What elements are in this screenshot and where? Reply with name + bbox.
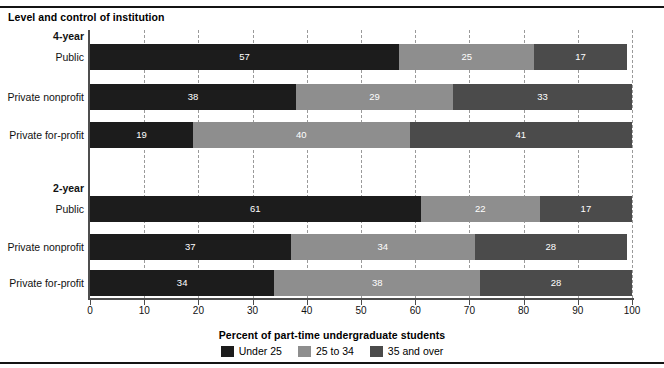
bar-segment-25-to-34[interactable]: 25 [399, 44, 535, 70]
tick-label-50: 50 [355, 305, 366, 316]
bar-segment-value: 41 [516, 130, 527, 140]
bar-segment-25-to-34[interactable]: 34 [291, 234, 475, 260]
bar-segment-value: 28 [545, 242, 556, 252]
bar-segment-value: 61 [250, 204, 261, 214]
tick-label-60: 60 [410, 305, 421, 316]
tick-label-0: 0 [87, 305, 93, 316]
top-rule [0, 6, 664, 8]
bar-segment-25-to-34[interactable]: 40 [193, 122, 410, 148]
bar-segment-value: 40 [296, 130, 307, 140]
legend-item[interactable]: 25 to 34 [298, 345, 354, 357]
bar-segment-under-25[interactable]: 57 [90, 44, 399, 70]
legend-swatch-25-to-34 [298, 346, 311, 357]
bar-row[interactable]: 343828 [90, 270, 632, 296]
bar-segment-25-to-34[interactable]: 29 [296, 84, 453, 110]
bar-segment-value: 38 [188, 92, 199, 102]
row-label-private-nonprofit: Private nonprofit [0, 91, 84, 103]
bar-row[interactable]: 194041 [90, 122, 632, 148]
bar-segment-25-to-34[interactable]: 22 [421, 196, 540, 222]
row-label-private-for-profit: Private for-profit [0, 129, 84, 141]
bar-row[interactable]: 612217 [90, 196, 632, 222]
bar-segment-value: 22 [475, 204, 486, 214]
bar-segment-under-25[interactable]: 37 [90, 234, 291, 260]
bar-row[interactable]: 382933 [90, 84, 632, 110]
bar-segment-value: 34 [177, 278, 188, 288]
tick-label-10: 10 [139, 305, 150, 316]
legend-swatch-35-and-over [370, 346, 383, 357]
bar-segment-value: 34 [377, 242, 388, 252]
bar-segment-35-and-over[interactable]: 17 [540, 196, 632, 222]
row-label-public: Public [0, 51, 84, 63]
bar-row[interactable]: 373428 [90, 234, 627, 260]
section-label-2-year: 2-year [0, 182, 84, 194]
bar-segment-25-to-34[interactable]: 38 [274, 270, 480, 296]
bar-segment-35-and-over[interactable]: 28 [480, 270, 632, 296]
tick-label-90: 90 [572, 305, 583, 316]
chart-figure: Level and control of institution 0102030… [0, 0, 664, 368]
bar-segment-value: 25 [461, 52, 472, 62]
row-label-private-for-profit: Private for-profit [0, 277, 84, 289]
bar-segment-value: 17 [575, 52, 586, 62]
bar-segment-value: 33 [537, 92, 548, 102]
bar-segment-under-25[interactable]: 61 [90, 196, 421, 222]
bar-segment-under-25[interactable]: 19 [90, 122, 193, 148]
bar-segment-under-25[interactable]: 34 [90, 270, 274, 296]
legend-label: 35 and over [388, 345, 443, 357]
row-label-public: Public [0, 203, 84, 215]
bar-segment-35-and-over[interactable]: 33 [453, 84, 632, 110]
group-heading: Level and control of institution [8, 11, 165, 23]
bottom-rule [0, 362, 664, 364]
legend-item[interactable]: Under 25 [221, 345, 282, 357]
bar-segment-under-25[interactable]: 38 [90, 84, 296, 110]
legend-label: 25 to 34 [316, 345, 354, 357]
row-label-private-nonprofit: Private nonprofit [0, 241, 84, 253]
chart-legend: Under 2525 to 3435 and over [0, 345, 664, 357]
bar-segment-35-and-over[interactable]: 28 [475, 234, 627, 260]
bar-segment-value: 38 [372, 278, 383, 288]
tick-label-40: 40 [301, 305, 312, 316]
gridline-100 [632, 30, 633, 298]
tick-label-30: 30 [247, 305, 258, 316]
section-label-4-year: 4-year [0, 30, 84, 42]
tick-label-80: 80 [518, 305, 529, 316]
bar-row[interactable]: 572517 [90, 44, 627, 70]
tick-label-100: 100 [624, 305, 641, 316]
bar-segment-35-and-over[interactable]: 41 [410, 122, 632, 148]
x-axis-title: Percent of part-time undergraduate stude… [0, 329, 664, 341]
bar-segment-value: 37 [185, 242, 196, 252]
bar-segment-value: 17 [581, 204, 592, 214]
legend-swatch-under-25 [221, 346, 234, 357]
bar-segment-value: 19 [136, 130, 147, 140]
bar-segment-value: 29 [369, 92, 380, 102]
tick-label-70: 70 [464, 305, 475, 316]
legend-label: Under 25 [239, 345, 282, 357]
bar-segment-value: 57 [239, 52, 250, 62]
legend-item[interactable]: 35 and over [370, 345, 443, 357]
bar-segment-35-and-over[interactable]: 17 [534, 44, 626, 70]
bar-segment-value: 28 [551, 278, 562, 288]
tick-label-20: 20 [193, 305, 204, 316]
